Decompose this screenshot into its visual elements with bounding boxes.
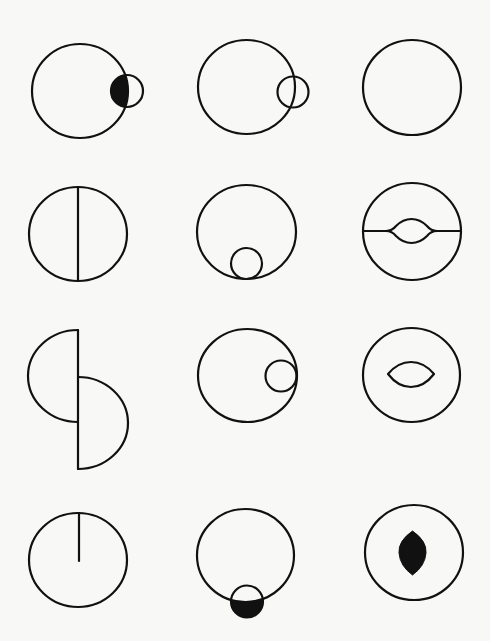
- figure-r4-c1-radius: [29, 513, 127, 607]
- figure-r3-c1-offset-semicircles: [28, 330, 128, 469]
- figure-r2-c3-line-with-lens: [363, 183, 461, 280]
- main-circle: [197, 185, 296, 279]
- figure-r3-c2-internal-tangent-right: [198, 329, 297, 422]
- main-circle: [198, 329, 297, 422]
- figure-r2-c2-internal-tangent-bottom: [197, 185, 296, 279]
- small-circle: [231, 248, 262, 279]
- figure-r1-c2-overlap: [198, 40, 309, 134]
- main-circle: [363, 328, 460, 422]
- filled-vertical-lens: [399, 531, 426, 575]
- figure-r2-c1-diameter: [29, 187, 127, 281]
- lens-lower-arc: [386, 231, 437, 243]
- figure-r4-c2-external-filled: [197, 509, 294, 618]
- main-circle: [197, 509, 294, 602]
- figure-r4-c3-filled-lens: [365, 505, 463, 600]
- left-semicircle: [28, 330, 78, 422]
- figure-r1-c3-plain: [363, 40, 461, 135]
- main-circle: [198, 40, 295, 134]
- small-circle: [266, 361, 297, 392]
- figure-r1-c1-overlap-filled: [32, 44, 143, 138]
- lens-shape: [388, 362, 434, 387]
- right-semicircle: [78, 377, 128, 469]
- figure-r3-c3-lens: [363, 328, 460, 422]
- line-upper-lens: [363, 219, 461, 231]
- circle-figure-grid: [0, 0, 490, 641]
- main-circle: [363, 40, 461, 135]
